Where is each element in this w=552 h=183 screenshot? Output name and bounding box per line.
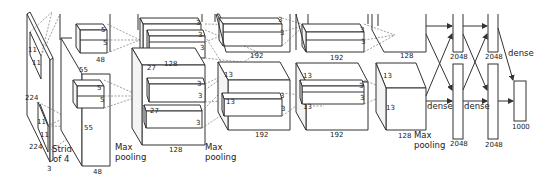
conv1-pool-line1: Max bbox=[115, 142, 133, 152]
conv3-size-side: 13 bbox=[226, 98, 235, 106]
fc6-top-units: 2048 bbox=[450, 53, 468, 61]
conv2-kernel-1: 3 bbox=[196, 19, 200, 27]
conv1-kernel-d: 5 bbox=[100, 96, 104, 104]
conv2-pool-line1: Max bbox=[205, 142, 223, 152]
fc7-layer: 2048 2048 dense bbox=[463, 14, 503, 149]
conv2-pool-line2: pooling bbox=[205, 152, 236, 162]
conv5-pool-line1: Max bbox=[414, 130, 432, 140]
conv5-depth-top: 128 bbox=[400, 52, 413, 60]
conv2-size-top: 27 bbox=[147, 64, 156, 72]
conv1-depth-bottom: 48 bbox=[93, 168, 102, 176]
conv4-kernel-4: 3 bbox=[360, 94, 364, 102]
input-kernel-h-top: 11 bbox=[28, 46, 37, 54]
conv3-kernel-4: 3 bbox=[281, 105, 285, 113]
conv2-size-bottom: 27 bbox=[150, 107, 159, 115]
conv1-kernel-a: 5 bbox=[101, 26, 105, 34]
conv1-size-side: 55 bbox=[84, 124, 93, 132]
conv5-size-side: 13 bbox=[386, 104, 395, 112]
input-kernel-w-top: 11 bbox=[32, 59, 41, 67]
conv5-layer: 128 13 13 128 Max pooling bbox=[372, 14, 445, 150]
input-height-label: 224 bbox=[25, 94, 39, 102]
fc8-layer: 1000 dense bbox=[498, 28, 534, 131]
conv4-size-label: 13 bbox=[303, 72, 312, 80]
conv2-kernel-3: 3 bbox=[200, 44, 204, 52]
conv2-kernel-5: 3 bbox=[198, 92, 202, 100]
fc6-dense-label: dense bbox=[427, 101, 453, 111]
conv1-depth-top: 48 bbox=[96, 56, 105, 64]
conv5-depth-bottom: 128 bbox=[398, 132, 411, 140]
conv4-kernel-3: 3 bbox=[359, 82, 363, 90]
input-width-label: 224 bbox=[29, 143, 43, 151]
conv3-kernel-1: 3 bbox=[278, 16, 282, 24]
conv5-pool-line2: pooling bbox=[414, 140, 445, 150]
conv2-kernel-6: 3 bbox=[196, 119, 200, 127]
conv4-kernel-2: 3 bbox=[361, 38, 365, 46]
conv2-depth-bottom: 128 bbox=[169, 146, 182, 154]
input-kernel-h-bottom: 11 bbox=[37, 118, 46, 126]
input-channels-label: 3 bbox=[47, 165, 51, 173]
conv1-kernel-b: 5 bbox=[103, 39, 107, 47]
stride-label-line2: of 4 bbox=[53, 154, 69, 164]
conv3-depth-bottom: 192 bbox=[255, 131, 268, 139]
fc7-bottom-units: 2048 bbox=[485, 141, 503, 149]
conv3-size-label: 13 bbox=[224, 71, 233, 79]
conv1-pool-line2: pooling bbox=[115, 152, 146, 162]
fc7-top-units: 2048 bbox=[485, 53, 503, 61]
conv3-depth-top: 192 bbox=[250, 52, 263, 60]
conv4-depth-bottom: 192 bbox=[330, 131, 343, 139]
conv1-kernel-c: 5 bbox=[97, 84, 101, 92]
conv2-depth-top: 128 bbox=[164, 60, 177, 68]
fc6-bottom-units: 2048 bbox=[450, 140, 468, 148]
fc8-output-units: 1000 bbox=[512, 123, 530, 131]
conv5-size-label: 13 bbox=[383, 72, 392, 80]
conv4-size-side: 13 bbox=[303, 103, 312, 111]
input-kernel-w-bottom: 11 bbox=[40, 131, 49, 139]
conv4-depth-top: 192 bbox=[330, 54, 343, 62]
cnn-architecture-diagram: 11 11 224 11 11 224 3 Stride of 4 5 5 48… bbox=[0, 0, 552, 183]
conv2-kernel-2: 3 bbox=[198, 31, 202, 39]
fc8-dense-label: dense bbox=[508, 48, 534, 58]
fc6-layer: 2048 2048 dense bbox=[426, 14, 468, 148]
conv2-kernel-4: 3 bbox=[197, 80, 201, 88]
conv4-kernel-1: 3 bbox=[360, 26, 364, 34]
fc7-dense-label: dense bbox=[464, 101, 490, 111]
conv1-size-label: 55 bbox=[79, 66, 88, 74]
conv3-kernel-2: 3 bbox=[280, 29, 284, 37]
